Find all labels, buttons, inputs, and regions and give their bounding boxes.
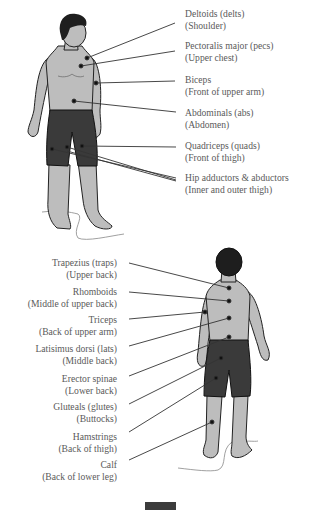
label-name: Trapezius (traps) bbox=[52, 257, 117, 269]
label-name: Deltoids (delts) bbox=[185, 8, 244, 20]
label-desc: (Inner and outer thigh) bbox=[185, 184, 289, 196]
label-name: Rhomboids bbox=[28, 286, 117, 298]
label-desc: (Abdomen) bbox=[185, 119, 253, 131]
label-name: Hamstrings bbox=[58, 431, 117, 443]
page-edge-tab bbox=[145, 502, 176, 510]
back-right-leg bbox=[231, 396, 252, 458]
label-quadriceps: Quadriceps (quads) (Front of thigh) bbox=[185, 140, 260, 163]
label-latissimus: Latisimus dorsi (lats) (Middle back) bbox=[35, 343, 117, 366]
label-desc: (Shoulder) bbox=[185, 20, 244, 32]
label-name: Pectoralis major (pecs) bbox=[185, 40, 273, 52]
label-desc: (Upper chest) bbox=[185, 52, 273, 64]
front-right-leg bbox=[78, 162, 112, 229]
label-calf: Calf (Back of lower leg) bbox=[42, 459, 117, 482]
label-name: Hip adductors & abductors bbox=[185, 172, 289, 184]
label-name: Biceps bbox=[185, 74, 264, 86]
front-left-arm bbox=[28, 58, 48, 137]
label-desc: (Back of upper arm) bbox=[39, 326, 117, 338]
back-head bbox=[216, 248, 242, 276]
label-trapezius: Trapezius (traps) (Upper back) bbox=[52, 257, 117, 280]
label-name: Erector spinae bbox=[62, 373, 117, 385]
label-name: Latisimus dorsi (lats) bbox=[35, 343, 117, 355]
label-erector-spinae: Erector spinae (Lower back) bbox=[62, 373, 117, 396]
label-name: Calf bbox=[42, 459, 117, 471]
label-name: Gluteals (glutes) bbox=[53, 401, 117, 413]
back-shorts bbox=[204, 340, 251, 397]
label-desc: (Back of lower leg) bbox=[42, 471, 117, 483]
label-name: Abdominals (abs) bbox=[185, 107, 253, 119]
label-desc: (Middle back) bbox=[35, 355, 117, 367]
label-name: Triceps bbox=[39, 314, 117, 326]
label-desc: (Buttocks) bbox=[53, 413, 117, 425]
label-biceps: Biceps (Front of upper arm) bbox=[185, 74, 264, 97]
label-desc: (Middle of upper back) bbox=[28, 298, 117, 310]
label-deltoids: Deltoids (delts) (Shoulder) bbox=[185, 8, 244, 31]
label-pectoralis: Pectoralis major (pecs) (Upper chest) bbox=[185, 40, 273, 63]
label-hip-adductors: Hip adductors & abductors (Inner and out… bbox=[185, 172, 289, 195]
label-desc: (Front of upper arm) bbox=[185, 86, 264, 98]
label-triceps: Triceps (Back of upper arm) bbox=[39, 314, 117, 337]
label-name: Quadriceps (quads) bbox=[185, 140, 260, 152]
back-left-leg bbox=[203, 395, 222, 458]
label-abdominals: Abdominals (abs) (Abdomen) bbox=[185, 107, 253, 130]
label-gluteals: Gluteals (glutes) (Buttocks) bbox=[53, 401, 117, 424]
label-desc: (Back of thigh) bbox=[58, 443, 117, 455]
label-desc: (Lower back) bbox=[62, 385, 117, 397]
label-desc: (Upper back) bbox=[52, 269, 117, 281]
front-left-leg bbox=[48, 162, 71, 229]
label-rhomboids: Rhomboids (Middle of upper back) bbox=[28, 286, 117, 309]
label-hamstrings: Hamstrings (Back of thigh) bbox=[58, 431, 117, 454]
label-desc: (Front of thigh) bbox=[185, 152, 260, 164]
